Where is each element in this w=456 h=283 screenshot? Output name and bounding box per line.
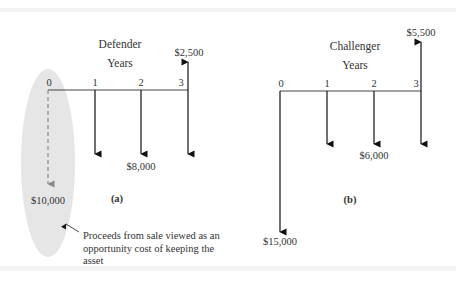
opportunity-cost-annotation: Proceeds from sale viewed as an opportun…: [83, 230, 233, 268]
challenger-investment-label: $15,000: [263, 236, 297, 247]
challenger-tick-3: 3: [413, 78, 418, 89]
defender-tick-0: 0: [46, 77, 51, 88]
defender-title: Defender: [99, 38, 142, 50]
annotation-pointer-arrow: [66, 224, 79, 232]
defender-caption: (a): [111, 193, 124, 205]
challenger-caption: (b): [344, 194, 357, 206]
defender-salvage-label: $2,500: [175, 47, 204, 58]
challenger-annual-cost-label: $6,000: [360, 150, 389, 161]
defender-axis-label: Years: [107, 57, 133, 69]
challenger-tick-1: 1: [324, 78, 329, 89]
defender-diagram: Defender Years 0 1 2 3 $2,500 $8,000 $10…: [21, 38, 203, 257]
challenger-diagram: Challenger Years 0 1 2 3 $5,500 $6,000 $…: [263, 27, 436, 247]
challenger-tick-0: 0: [278, 78, 283, 89]
defender-annual-cost-label: $8,000: [127, 161, 156, 172]
defender-tick-3: 3: [178, 77, 183, 88]
defender-opportunity-cost-label: $10,000: [31, 195, 65, 206]
challenger-title: Challenger: [330, 40, 381, 53]
challenger-tick-2: 2: [371, 78, 376, 89]
challenger-axis-label: Years: [342, 59, 368, 71]
defender-tick-2: 2: [138, 77, 143, 88]
challenger-salvage-label: $5,500: [407, 27, 436, 38]
defender-tick-1: 1: [92, 77, 97, 88]
